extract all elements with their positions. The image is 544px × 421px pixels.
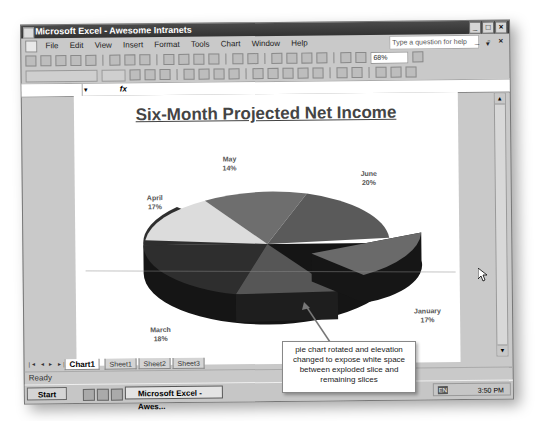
italic-icon[interactable] bbox=[144, 69, 155, 80]
menu-edit[interactable]: Edit bbox=[70, 38, 84, 53]
toolbar-separator bbox=[245, 68, 246, 79]
clock: 3:50 PM bbox=[478, 387, 504, 394]
underline-icon[interactable] bbox=[159, 69, 170, 80]
menu-insert[interactable]: Insert bbox=[123, 37, 143, 52]
copy-icon[interactable] bbox=[178, 54, 189, 65]
tab-sheet2[interactable]: Sheet2 bbox=[139, 358, 171, 369]
undo-icon[interactable] bbox=[232, 53, 243, 64]
pie-chart[interactable] bbox=[74, 92, 461, 366]
cut-icon[interactable] bbox=[163, 54, 174, 65]
label-january: January17% bbox=[414, 306, 441, 324]
taskbar-excel-item[interactable]: Microsoft Excel - Awes... bbox=[125, 385, 223, 399]
taskbar: Start Microsoft Excel - Awes... EN 3:50 … bbox=[25, 379, 513, 403]
menu-format[interactable]: Format bbox=[154, 37, 179, 52]
chart-wizard-icon[interactable] bbox=[340, 52, 351, 63]
restore-button[interactable]: □ bbox=[482, 22, 494, 34]
menu-window[interactable]: Window bbox=[252, 36, 281, 51]
print-icon[interactable] bbox=[109, 55, 120, 66]
merge-center-icon[interactable] bbox=[228, 68, 239, 79]
spelling-icon[interactable] bbox=[139, 54, 150, 65]
menu-help[interactable]: Help bbox=[291, 36, 308, 51]
name-box-dropdown-icon[interactable]: ▾ bbox=[84, 84, 88, 96]
workbook-window-controls[interactable]: _ ▫ × bbox=[475, 33, 507, 48]
format-painter-icon[interactable] bbox=[208, 53, 219, 64]
language-indicator[interactable]: EN bbox=[438, 386, 448, 394]
drawing-icon[interactable] bbox=[355, 52, 366, 63]
slice-february-side bbox=[236, 291, 338, 322]
open-icon[interactable] bbox=[40, 55, 51, 66]
currency-icon[interactable] bbox=[252, 68, 263, 79]
chart-sheet[interactable]: Six-Month Projected Net Income May14% Ju… bbox=[74, 92, 461, 366]
minimize-button[interactable]: _ bbox=[469, 22, 481, 34]
menu-chart[interactable]: Chart bbox=[221, 36, 241, 51]
save-icon[interactable] bbox=[55, 55, 66, 66]
vertical-scrollbar[interactable]: ▲ ▼ bbox=[494, 92, 509, 356]
window-controls: _ □ × bbox=[469, 21, 507, 33]
font-color-icon[interactable] bbox=[405, 66, 416, 77]
zoom-select[interactable]: 68% bbox=[370, 51, 408, 63]
window-title: Microsoft Excel - Awesome Intranets bbox=[35, 25, 192, 37]
toolbar-separator bbox=[225, 53, 226, 64]
show-desktop-icon[interactable] bbox=[83, 389, 95, 401]
toolbar-separator bbox=[333, 52, 334, 63]
media-icon[interactable] bbox=[111, 389, 123, 401]
bold-icon[interactable] bbox=[129, 69, 140, 80]
align-center-icon[interactable] bbox=[198, 69, 209, 80]
new-icon[interactable] bbox=[25, 55, 36, 66]
comma-icon[interactable] bbox=[282, 68, 293, 79]
toolbar-separator bbox=[368, 67, 369, 78]
close-button[interactable]: × bbox=[495, 21, 507, 33]
mouse-cursor-icon bbox=[478, 268, 488, 282]
font-size-select[interactable] bbox=[101, 69, 125, 81]
callout-annotation: pie chart rotated and elevation changed … bbox=[282, 341, 416, 393]
tab-chart1[interactable]: Chart1 bbox=[65, 359, 100, 370]
scroll-up-button[interactable]: ▲ bbox=[495, 94, 505, 105]
insert-function-icon[interactable]: fx bbox=[120, 83, 127, 95]
redo-icon[interactable] bbox=[247, 53, 258, 64]
menu-view[interactable]: View bbox=[95, 38, 112, 53]
permission-icon[interactable] bbox=[70, 55, 81, 66]
toolbar-separator bbox=[102, 55, 103, 66]
borders-icon[interactable] bbox=[375, 67, 386, 78]
workbook-icon[interactable] bbox=[25, 40, 37, 52]
fill-color-icon[interactable] bbox=[390, 67, 401, 78]
system-tray: EN 3:50 PM bbox=[433, 382, 511, 396]
menu-tools[interactable]: Tools bbox=[191, 37, 210, 52]
toolbar-separator bbox=[156, 54, 157, 65]
hyperlink-icon[interactable] bbox=[271, 53, 282, 64]
toolbar-separator bbox=[264, 53, 265, 64]
help-icon[interactable] bbox=[412, 51, 423, 62]
label-april: April17% bbox=[147, 193, 163, 211]
sort-descending-icon[interactable] bbox=[316, 52, 327, 63]
decrease-indent-icon[interactable] bbox=[336, 67, 347, 78]
autosum-icon[interactable] bbox=[286, 53, 297, 64]
increase-decimal-icon[interactable] bbox=[297, 68, 308, 79]
align-right-icon[interactable] bbox=[213, 68, 224, 79]
tab-navigation-buttons[interactable]: |◂ ◂ ▸ ▸| bbox=[29, 359, 67, 370]
print-preview-icon[interactable] bbox=[124, 54, 135, 65]
tab-sheet3[interactable]: Sheet3 bbox=[173, 358, 205, 369]
excel-window: Microsoft Excel - Awesome Intranets _ □ … bbox=[20, 19, 514, 404]
help-search-input[interactable]: Type a question for help bbox=[389, 35, 479, 50]
tab-sheet1[interactable]: Sheet1 bbox=[105, 358, 137, 369]
excel-app-icon bbox=[23, 27, 34, 38]
percent-icon[interactable] bbox=[267, 68, 278, 79]
decrease-decimal-icon[interactable] bbox=[312, 67, 323, 78]
email-icon[interactable] bbox=[85, 55, 96, 66]
name-box[interactable] bbox=[22, 84, 83, 97]
align-left-icon[interactable] bbox=[183, 69, 194, 80]
paste-icon[interactable] bbox=[193, 54, 204, 65]
menu-file[interactable]: File bbox=[45, 38, 58, 53]
increase-indent-icon[interactable] bbox=[351, 67, 362, 78]
toolbar-separator bbox=[329, 67, 330, 78]
label-march: March18% bbox=[150, 325, 171, 343]
toolbar-separator bbox=[176, 69, 177, 80]
browser-icon[interactable] bbox=[97, 389, 109, 401]
label-june: June20% bbox=[361, 169, 378, 187]
start-button[interactable]: Start bbox=[27, 387, 67, 400]
font-name-select[interactable] bbox=[25, 69, 97, 82]
sort-ascending-icon[interactable] bbox=[301, 53, 312, 64]
label-may: May14% bbox=[222, 154, 236, 172]
